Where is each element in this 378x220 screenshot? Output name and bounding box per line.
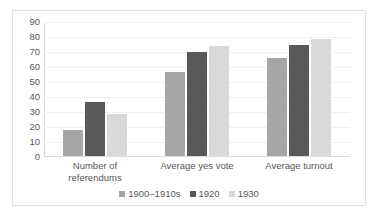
bar[interactable] [85, 102, 105, 158]
y-axis-tick-label: 50 [29, 77, 40, 87]
y-axis-tick-label: 10 [29, 137, 40, 147]
bar[interactable] [289, 45, 309, 158]
legend-item[interactable]: 1900–1910s [119, 189, 180, 199]
y-axis-tick-label: 40 [29, 92, 40, 102]
y-axis-tick-label: 20 [29, 122, 40, 132]
bar[interactable] [187, 52, 207, 157]
x-axis-category-label: Average yes vote [146, 160, 248, 172]
x-axis-category-label: Number ofreferendums [44, 160, 146, 184]
bar[interactable] [165, 72, 185, 158]
legend-swatch-icon [119, 191, 125, 197]
x-axis-category-label: Average turnout [248, 160, 350, 172]
plot-area [44, 22, 350, 157]
y-axis-tick-label: 80 [29, 32, 40, 42]
bar-group [146, 22, 248, 157]
bar-group [248, 22, 350, 157]
legend-label: 1900–1910s [128, 189, 180, 199]
bar[interactable] [107, 114, 127, 158]
bar[interactable] [209, 46, 229, 157]
bar-group [44, 22, 146, 157]
x-axis-line [44, 156, 350, 157]
y-axis-tick-label: 60 [29, 62, 40, 72]
y-axis-tick-labels: 0102030405060708090 [12, 22, 40, 157]
x-axis-category-labels: Number ofreferendumsAverage yes voteAver… [44, 160, 350, 190]
x-axis-label-line: Number of [44, 160, 146, 172]
chart-legend: 1900–1910s19201930 [12, 189, 366, 199]
legend-label: 1920 [199, 189, 220, 199]
y-axis-tick-label: 0 [35, 152, 40, 162]
legend-item[interactable]: 1930 [229, 189, 259, 199]
bar[interactable] [267, 58, 287, 157]
legend-swatch-icon [229, 191, 235, 197]
x-axis-label-line: Average yes vote [146, 160, 248, 172]
legend-item[interactable]: 1920 [190, 189, 220, 199]
legend-label: 1930 [238, 189, 259, 199]
chart-container: 0102030405060708090 Number ofreferendums… [0, 0, 378, 220]
x-axis-label-line: Average turnout [248, 160, 350, 172]
y-axis-tick-label: 90 [29, 17, 40, 27]
bar[interactable] [63, 130, 83, 157]
x-axis-label-line: referendums [44, 172, 146, 184]
y-axis-tick-label: 70 [29, 47, 40, 57]
y-axis-tick-label: 30 [29, 107, 40, 117]
bar[interactable] [311, 39, 331, 158]
legend-swatch-icon [190, 191, 196, 197]
